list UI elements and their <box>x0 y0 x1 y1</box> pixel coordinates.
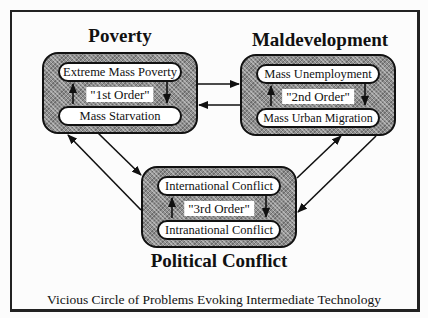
arrow-political-to-maldevelopment <box>297 136 341 178</box>
political-conflict-box: International Conflict "3rd Order" Intra… <box>141 166 297 248</box>
figure-caption: Vicious Circle of Problems Evoking Inter… <box>0 292 428 308</box>
arrow-maldevelopment-to-political <box>298 136 376 212</box>
maldevelopment-box: Mass Unemployment "2nd Order" Mass Urban… <box>240 54 396 136</box>
poverty-title: Poverty <box>70 25 170 47</box>
political-internal-arrows <box>141 166 297 248</box>
poverty-internal-arrows <box>42 52 198 134</box>
political-conflict-title: Political Conflict <box>139 250 299 272</box>
maldevelopment-title: Maldevelopment <box>250 29 390 51</box>
arrow-poverty-to-political <box>98 133 141 175</box>
poverty-box: Extreme Mass Poverty "1st Order" Mass St… <box>42 52 198 134</box>
maldevelopment-internal-arrows <box>240 54 396 136</box>
arrow-political-to-poverty <box>68 135 141 210</box>
